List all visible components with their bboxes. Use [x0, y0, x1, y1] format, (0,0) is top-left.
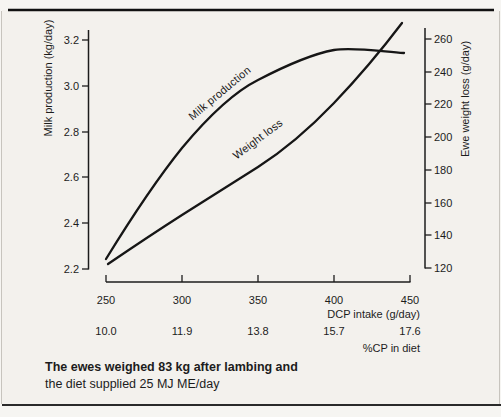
- left-tick-label: 2.4: [64, 217, 79, 229]
- x2-axis-title: %CP in diet: [363, 342, 420, 354]
- x2-tick-label: 10.0: [95, 325, 116, 337]
- x-tick-label: 400: [325, 294, 343, 306]
- left-tick-label: 2.2: [64, 263, 79, 275]
- right-tick-label: 160: [434, 197, 452, 209]
- figure-container: 3.2 3.0 2.8 2.6 2.4 2.2 Milk production …: [0, 0, 501, 417]
- x-axis: [106, 275, 411, 282]
- left-axis-title: Milk production (kg/day): [42, 20, 54, 137]
- right-tick-label: 120: [434, 262, 452, 274]
- figure-frame: [2, 10, 501, 405]
- x2-tick-label: 11.9: [172, 325, 193, 337]
- caption: The ewes weighed 83 kg after lambing and…: [45, 360, 298, 391]
- x-tick-label: 300: [173, 294, 191, 306]
- x2-tick-label: 15.7: [323, 325, 344, 337]
- right-tick-label: 180: [434, 164, 452, 176]
- x2-tick-label: 17.6: [399, 325, 420, 337]
- right-tick-label: 260: [434, 33, 452, 45]
- right-axis: [425, 28, 432, 269]
- x2-tick-label: 13.8: [247, 325, 268, 337]
- milk-production-curve: [106, 49, 404, 259]
- right-tick-label: 140: [434, 229, 452, 241]
- left-axis: [82, 30, 89, 270]
- right-tick-label: 220: [434, 98, 452, 110]
- left-tick-label: 3.2: [64, 34, 79, 46]
- left-tick-label: 3.0: [64, 80, 79, 92]
- right-tick-label: 240: [434, 66, 452, 78]
- left-tick-label: 2.6: [64, 171, 79, 183]
- left-axis-tick-labels: 3.2 3.0 2.8 2.6 2.4 2.2: [64, 34, 79, 275]
- right-axis-title: Ewe weight loss (g/day): [459, 41, 471, 157]
- x-axis-tick-labels: 250 300 350 400 450: [97, 294, 419, 306]
- left-tick-label: 2.8: [64, 126, 79, 138]
- caption-line-2: the diet supplied 25 MJ ME/day: [45, 377, 220, 391]
- milk-production-curve-label: Milk production: [186, 64, 253, 123]
- x-tick-label: 350: [249, 294, 267, 306]
- right-axis-tick-labels: 260 240 220 200 180 160 140 120: [434, 33, 452, 274]
- x-tick-label: 250: [97, 294, 115, 306]
- chart-canvas: 3.2 3.0 2.8 2.6 2.4 2.2 Milk production …: [0, 0, 501, 417]
- x-axis-title: DCP intake (g/day): [327, 308, 420, 320]
- caption-line-1: The ewes weighed 83 kg after lambing and: [45, 360, 298, 374]
- x2-axis-tick-labels: 10.0 11.9 13.8 15.7 17.6: [95, 325, 420, 337]
- x-tick-label: 450: [401, 294, 419, 306]
- right-tick-label: 200: [434, 131, 452, 143]
